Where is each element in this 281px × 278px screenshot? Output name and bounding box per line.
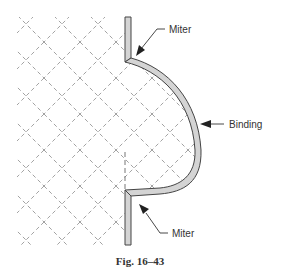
binding-label: Binding (229, 119, 262, 130)
crosshatch-region (0, 0, 281, 278)
binding-diagram: Miter Binding Miter Fig. 16–43 (0, 0, 281, 278)
upper-edge-strip (125, 17, 131, 62)
lower-edge-strip (125, 190, 131, 245)
miter-top-label: Miter (169, 24, 192, 35)
binding-callout: Binding (200, 119, 262, 130)
arrow-icon (200, 120, 211, 128)
arrow-icon (136, 45, 145, 56)
arrow-icon (139, 204, 149, 214)
figure-caption: Fig. 16–43 (116, 255, 165, 267)
miter-bottom-callout: Miter (139, 204, 195, 239)
miter-top-callout: Miter (136, 24, 192, 56)
miter-bottom-label: Miter (172, 228, 195, 239)
